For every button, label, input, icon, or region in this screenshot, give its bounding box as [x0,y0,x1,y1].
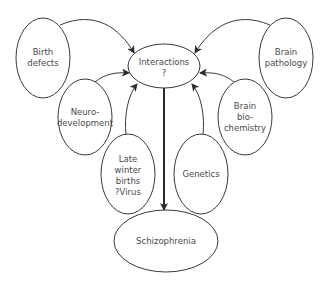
edge-birth-defects-to-interactions [60,20,134,53]
schizophrenia-factors-diagram: Birth defects Brain pathology Interactio… [0,0,329,286]
node-brain-pathology-line-2: pathology [265,58,308,68]
edge-genetics-to-interactions [192,84,204,135]
node-late-winter-births-line-2: winter [115,165,142,175]
node-late-winter-births: Late winter births ?Virus [101,134,155,214]
node-late-winter-births-line-3: births [116,176,141,186]
node-late-winter-births-line-4: ?Virus [115,187,141,197]
node-brain-pathology-line-1: Brain [275,47,297,57]
edge-brain-pathology-to-interactions [195,20,270,53]
node-neurodevelopment-line-1: Neuro- [71,107,100,117]
node-late-winter-births-line-1: Late [119,154,138,164]
node-brain-biochemistry: Brain bio- chemistry [218,79,272,155]
node-genetics: Genetics [174,134,228,214]
node-birth-defects-line-1: Birth [33,47,53,57]
edge-brain-biochemistry-to-interactions [200,73,234,82]
node-schizophrenia-line-1: Schizophrenia [136,236,196,246]
node-interactions: Interactions ? [128,44,200,88]
node-genetics-line-1: Genetics [182,169,220,179]
node-birth-defects: Birth defects [16,18,70,98]
edge-late-winter-births-to-interactions [125,84,137,135]
node-brain-pathology: Brain pathology [259,18,313,98]
node-interactions-line-1: Interactions [139,57,190,67]
node-brain-biochemistry-line-1: Brain [234,101,256,111]
edge-neurodevelopment-to-interactions [95,73,129,82]
node-birth-defects-line-2: defects [27,58,59,68]
node-schizophrenia: Schizophrenia [114,210,218,272]
node-neurodevelopment: Neuro- development [57,79,114,155]
node-brain-biochemistry-line-3: chemistry [224,123,266,133]
node-neurodevelopment-line-2: development [57,118,114,128]
node-interactions-line-2: ? [162,68,167,78]
node-brain-biochemistry-line-2: bio- [237,112,253,122]
